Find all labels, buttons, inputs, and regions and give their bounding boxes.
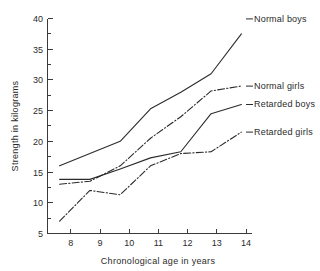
y-tick-label-40: 40	[33, 14, 43, 24]
series-labels-group: Normal boys Normal girls Retarded boys R…	[254, 14, 315, 137]
x-axis-tick-labels: 8 9 10 11 12 13 14	[68, 238, 251, 248]
y-tick-label-10: 10	[33, 198, 43, 208]
series-label-normal-boys: Normal boys	[254, 14, 307, 24]
y-tick-label-25: 25	[33, 106, 43, 116]
chart-figure: 40 35 30 25 20 15 10 5 8 9 10 11 12 13	[0, 0, 320, 271]
series-line-retarded-girls	[60, 132, 242, 221]
series-label-retarded-boys: Retarded boys	[254, 99, 315, 109]
x-tick-label-10: 10	[124, 238, 134, 248]
x-axis-title: Chronological age in years	[101, 256, 216, 266]
series-leader-lines	[246, 19, 253, 132]
x-tick-label-8: 8	[68, 238, 73, 248]
y-tick-label-15: 15	[33, 168, 43, 178]
y-tick-label-30: 30	[33, 75, 43, 85]
y-axis-title: Strength in kilograms	[10, 80, 20, 171]
series-line-normal-boys	[60, 34, 242, 166]
x-axis-ticks	[71, 229, 246, 234]
y-axis-minor-ticks	[48, 34, 52, 218]
series-label-normal-girls: Normal girls	[254, 81, 305, 91]
series-line-retarded-boys	[60, 104, 242, 179]
y-tick-label-20: 20	[33, 137, 43, 147]
axes-group	[48, 19, 253, 234]
x-tick-label-11: 11	[154, 238, 163, 248]
x-tick-label-9: 9	[97, 238, 102, 248]
x-tick-label-14: 14	[241, 238, 251, 248]
series-line-normal-girls	[60, 86, 242, 184]
series-label-retarded-girls: Retarded girls	[254, 127, 313, 137]
strength-vs-age-line-chart: 40 35 30 25 20 15 10 5 8 9 10 11 12 13	[0, 0, 320, 271]
series-group	[60, 34, 242, 221]
y-axis-tick-labels: 40 35 30 25 20 15 10 5	[33, 14, 43, 239]
x-tick-label-12: 12	[183, 238, 193, 248]
y-tick-label-5: 5	[38, 229, 43, 239]
x-tick-label-13: 13	[212, 238, 222, 248]
y-tick-label-35: 35	[33, 45, 43, 55]
